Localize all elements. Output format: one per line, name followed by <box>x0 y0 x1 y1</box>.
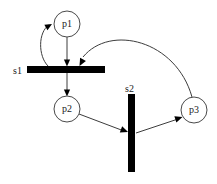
place-p1[interactable]: p1 <box>54 11 80 37</box>
arc-p2-to-s2-arrowhead <box>120 126 129 135</box>
place-p3[interactable]: p3 <box>181 97 207 123</box>
arc-s1-to-p2[interactable] <box>64 73 70 97</box>
transition-s1[interactable]: s1 <box>13 65 105 76</box>
petri-net-canvas: s1 s2 p1 p2 p3 <box>0 0 217 184</box>
arc-p1-to-s1-arrowhead <box>64 60 70 67</box>
arc-s2-to-p3[interactable] <box>136 114 184 133</box>
arc-s2-to-p3-line <box>136 119 178 133</box>
transition-s1-bar[interactable] <box>27 66 105 73</box>
arc-p2-to-s2[interactable] <box>79 114 129 135</box>
arc-p2-to-s2-line <box>79 114 124 131</box>
arc-s1-to-p2-arrowhead <box>64 90 70 97</box>
place-p2-label: p2 <box>62 103 72 114</box>
arc-p1-to-s1[interactable] <box>64 37 70 67</box>
arc-s1-to-p1[interactable] <box>41 21 54 66</box>
place-p3-label: p3 <box>189 104 199 115</box>
arc-s1-to-p1-line <box>41 25 49 66</box>
transition-s2-bar[interactable] <box>128 94 135 172</box>
petri-net-diagram: s1 s2 p1 p2 p3 <box>0 0 217 184</box>
place-p1-label: p1 <box>62 18 72 29</box>
transition-s1-label: s1 <box>13 65 22 76</box>
transition-s2[interactable]: s2 <box>125 83 135 172</box>
transition-s2-label: s2 <box>125 83 134 94</box>
arc-s1-to-p1-arrowhead <box>44 21 53 30</box>
place-p2[interactable]: p2 <box>54 96 80 122</box>
